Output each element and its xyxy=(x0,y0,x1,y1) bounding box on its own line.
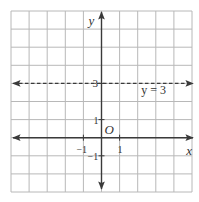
y-tick-label-3: 3 xyxy=(93,77,99,89)
y-axis-label: y xyxy=(87,13,95,28)
equation-label: y = 3 xyxy=(141,83,166,97)
x-axis-label: x xyxy=(185,143,192,158)
x-tick-label-neg1: −1 xyxy=(76,144,87,155)
coordinate-plane: x y O y = 3 −1 1 −1 1 3 xyxy=(0,0,199,202)
origin-label: O xyxy=(105,122,115,137)
x-tick-label-1: 1 xyxy=(118,144,123,155)
y-tick-label-neg1: −1 xyxy=(88,151,99,162)
y-tick-label-1: 1 xyxy=(94,115,99,126)
